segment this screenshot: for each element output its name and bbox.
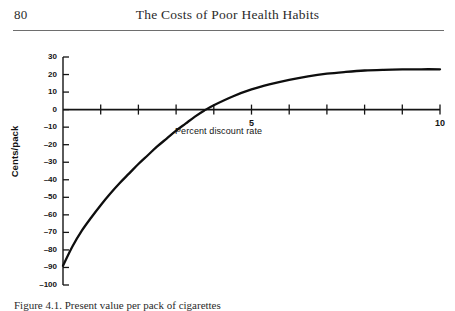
y-tick-label: 10 — [27, 87, 57, 96]
y-tick-label: –70 — [27, 227, 57, 236]
y-tick-label: 30 — [27, 52, 57, 61]
plot-area — [0, 34, 455, 305]
y-tick-label: 20 — [27, 70, 57, 79]
running-head: The Costs of Poor Health Habits — [0, 7, 455, 23]
y-tick-label: –40 — [27, 175, 57, 184]
y-tick-label: –30 — [27, 157, 57, 166]
data-curve-group — [63, 69, 440, 265]
page-header: 80 The Costs of Poor Health Habits — [0, 0, 455, 28]
figure-chart: Cents/pack Percent discount rate 3020100… — [0, 34, 455, 305]
axes-group — [63, 57, 440, 285]
y-tick-label: –20 — [27, 140, 57, 149]
y-tick-label: –90 — [27, 262, 57, 271]
y-tick-label: –60 — [27, 210, 57, 219]
header-divider — [13, 30, 444, 31]
y-tick-label: 0 — [27, 105, 57, 114]
figure-caption: Figure 4.1. Present value per pack of ci… — [14, 299, 444, 311]
y-tick-label: –10 — [27, 122, 57, 131]
y-tick-label: –80 — [27, 245, 57, 254]
y-tick-label: –100 — [27, 280, 57, 289]
y-tick-label: –50 — [27, 192, 57, 201]
x-tick-label: 10 — [429, 118, 451, 128]
x-tick-label: 5 — [241, 118, 263, 128]
